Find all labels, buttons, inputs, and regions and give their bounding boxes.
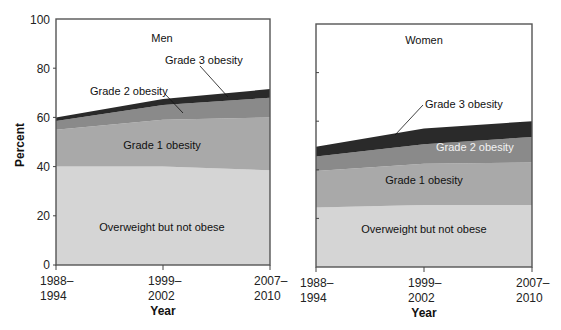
men-x-axis: 1988– 1994 1999– 2002 2007– 2010 Year — [40, 265, 288, 318]
women-grade1-label: Grade 1 obesity — [385, 174, 463, 186]
men-y-axis: 0 20 40 60 80 100 — [30, 13, 56, 272]
men-overweight-label: Overweight but not obese — [99, 221, 224, 233]
men-area-overweight-but-not-obese — [56, 167, 270, 265]
women-grade2-label: Grade 2 obesity — [436, 141, 514, 153]
x-tick-label: 2010 — [516, 291, 543, 305]
men-grade3-label: Grade 3 obesity — [165, 54, 243, 66]
x-tick-label: 1988– — [40, 274, 74, 288]
x-tick-label: 1994 — [300, 291, 327, 305]
y-tick-label: 20 — [37, 209, 51, 223]
men-grade2-label: Grade 2 obesity — [90, 85, 168, 97]
x-tick-label: 2002 — [408, 291, 435, 305]
women-area-overweight-but-not-obese — [316, 205, 532, 267]
x-axis-title: Year — [150, 304, 176, 318]
men-panel-title: Men — [151, 32, 172, 44]
y-tick-label: 80 — [37, 62, 51, 76]
x-tick-label: 1999– — [148, 274, 182, 288]
men-grade1-label: Grade 1 obesity — [123, 139, 201, 151]
y-axis-title: Percent — [13, 123, 27, 167]
y-tick-label: 60 — [37, 111, 51, 125]
x-tick-label: 2002 — [148, 289, 175, 303]
women-panel-title: Women — [405, 34, 443, 46]
x-tick-label: 2007– — [516, 276, 550, 290]
x-tick-label: 1999– — [408, 276, 442, 290]
women-x-axis: 1988– 1994 1999– 2002 2007– 2010 Year — [300, 267, 550, 320]
women-overweight-label: Overweight but not obese — [361, 223, 486, 235]
men-stacked-areas — [56, 89, 270, 265]
y-tick-label: 100 — [30, 13, 50, 27]
men-panel: 0 20 40 60 80 100 1988– 1994 1999– 2002 … — [30, 13, 288, 318]
women-panel: 1988– 1994 1999– 2002 2007– 2010 Year Wo… — [300, 24, 550, 320]
women-grade3-label: Grade 3 obesity — [425, 98, 503, 110]
obesity-trend-chart: Percent 0 20 40 60 80 100 1988– 1994 199… — [0, 0, 561, 330]
x-tick-label: 2007– — [254, 274, 288, 288]
x-axis-title: Year — [411, 306, 437, 320]
x-tick-label: 1994 — [40, 289, 67, 303]
x-tick-label: 2010 — [254, 289, 281, 303]
men-grade3-leader — [200, 66, 228, 97]
x-tick-label: 1988– — [300, 276, 334, 290]
y-tick-label: 0 — [43, 258, 50, 272]
y-tick-label: 40 — [37, 160, 51, 174]
